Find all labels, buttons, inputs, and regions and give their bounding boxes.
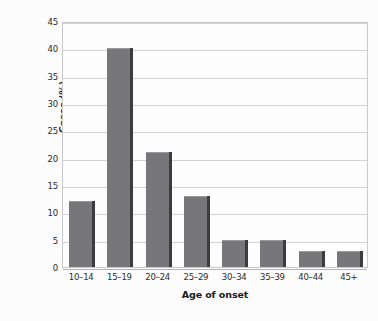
x-tick-label: 30–34 — [215, 272, 253, 282]
gridline — [63, 269, 367, 270]
bar-edge-shading — [245, 240, 248, 267]
x-tick-label: 40–44 — [292, 272, 330, 282]
bar-edge-shading — [207, 196, 210, 267]
bar-edge-shading — [322, 251, 325, 267]
y-tick-label: 40 — [30, 44, 58, 54]
x-tick-label: 25–29 — [177, 272, 215, 282]
bar-slot — [222, 23, 248, 267]
y-tick-label: 35 — [30, 72, 58, 82]
bar-slot — [337, 23, 363, 267]
bar-slot — [146, 23, 172, 267]
bar-edge-shading — [283, 240, 286, 267]
y-tick-label: 20 — [30, 154, 58, 164]
y-tick-label: 15 — [30, 181, 58, 191]
bar-slot — [260, 23, 286, 267]
x-tick-label: 20–24 — [139, 272, 177, 282]
y-tick-label: 0 — [30, 263, 58, 273]
y-tick-label: 30 — [30, 99, 58, 109]
bar-slot — [69, 23, 95, 267]
plot-area — [62, 22, 368, 268]
bar-slot — [299, 23, 325, 267]
bar-chart-figure: Cases (%) 051015202530354045 10–1415–192… — [0, 0, 378, 321]
x-axis-tick-labels: 10–1415–1920–2425–2930–3435–3940–4445+ — [62, 272, 368, 286]
x-tick-label: 10–14 — [62, 272, 100, 282]
x-tick-label: 45+ — [330, 272, 368, 282]
x-tick-label: 15–19 — [100, 272, 138, 282]
bar-edge-shading — [92, 201, 95, 267]
bars-layer — [63, 23, 367, 267]
bar-edge-shading — [130, 48, 133, 267]
x-axis-title: Age of onset — [62, 289, 368, 300]
y-tick-label: 10 — [30, 208, 58, 218]
bar-slot — [107, 23, 133, 267]
bar-slot — [184, 23, 210, 267]
bar-edge-shading — [360, 251, 363, 267]
y-axis-tick-labels: 051015202530354045 — [30, 22, 58, 268]
y-tick-label: 5 — [30, 236, 58, 246]
y-tick-label: 45 — [30, 17, 58, 27]
y-tick-label: 25 — [30, 126, 58, 136]
bar-edge-shading — [169, 152, 172, 267]
x-tick-label: 35–39 — [253, 272, 291, 282]
